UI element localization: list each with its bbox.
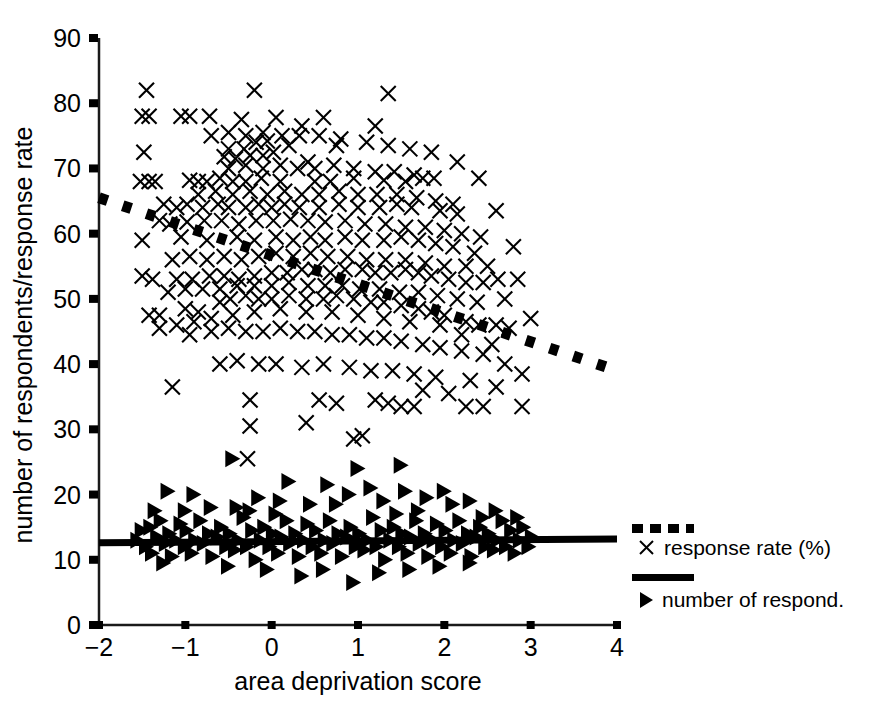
data-point-triangle xyxy=(154,512,169,529)
data-point-triangle xyxy=(292,548,307,565)
data-point-x xyxy=(325,327,340,342)
data-point-x xyxy=(376,311,391,326)
data-point-triangle xyxy=(323,512,338,529)
data-point-x xyxy=(454,226,469,241)
y-tick-label: 40 xyxy=(53,350,81,378)
data-point-x xyxy=(326,158,341,173)
data-point-x xyxy=(221,161,236,176)
data-point-x xyxy=(437,259,452,274)
data-point-x xyxy=(418,256,433,271)
data-point-x xyxy=(318,278,333,293)
data-point-x xyxy=(415,337,430,352)
x-tick-label: 2 xyxy=(437,633,451,661)
data-point-x xyxy=(142,109,157,124)
data-point-x xyxy=(292,200,307,215)
x-tick-mark xyxy=(527,621,535,629)
data-point-x xyxy=(303,229,318,244)
data-point-x xyxy=(363,295,378,310)
data-point-x xyxy=(338,213,353,228)
data-point-x xyxy=(212,282,227,297)
data-point-x xyxy=(152,321,167,336)
data-point-triangle xyxy=(363,480,378,497)
data-point-x xyxy=(234,112,249,127)
y-tick-label: 30 xyxy=(53,415,81,443)
data-point-x xyxy=(256,161,271,176)
data-point-x xyxy=(363,363,378,378)
data-point-triangle xyxy=(251,489,266,506)
data-point-x xyxy=(489,317,504,332)
data-point-x xyxy=(299,304,314,319)
data-point-x xyxy=(139,83,154,98)
data-point-x xyxy=(497,357,512,372)
data-point-triangle xyxy=(342,486,357,503)
data-point-triangle xyxy=(452,512,467,529)
y-tick-mark xyxy=(89,34,98,42)
data-point-x xyxy=(359,135,374,150)
y-tick-label: 90 xyxy=(53,24,81,52)
data-point-x xyxy=(476,399,491,414)
data-point-triangle xyxy=(161,483,176,500)
data-point-x xyxy=(290,324,305,339)
data-point-x xyxy=(221,125,236,140)
data-point-x xyxy=(145,272,160,287)
data-point-triangle xyxy=(320,476,335,493)
data-point-x xyxy=(325,304,340,319)
data-point-x xyxy=(264,265,279,280)
y-tick-mark xyxy=(89,99,98,107)
data-point-x xyxy=(316,357,331,372)
data-point-x xyxy=(346,291,361,306)
data-point-x xyxy=(407,399,422,414)
data-point-x xyxy=(376,233,391,248)
data-point-x xyxy=(450,291,465,306)
data-point-x xyxy=(368,164,383,179)
data-point-x xyxy=(369,187,384,202)
data-point-x xyxy=(136,145,151,160)
data-point-triangle xyxy=(366,509,381,526)
data-point-x xyxy=(387,164,402,179)
data-point-x xyxy=(156,197,171,212)
x-tick-mark xyxy=(268,621,276,629)
y-tick-label: 70 xyxy=(53,154,81,182)
data-point-x xyxy=(273,301,288,316)
data-point-x xyxy=(268,229,283,244)
y-tick-label: 80 xyxy=(53,89,81,117)
x-tick-label: −1 xyxy=(171,633,200,661)
data-point-triangle xyxy=(260,561,275,578)
series-response-rate xyxy=(133,83,538,467)
data-point-x xyxy=(398,252,413,267)
data-point-x xyxy=(312,200,327,215)
data-point-x xyxy=(332,197,347,212)
data-point-x xyxy=(225,174,240,189)
data-point-x xyxy=(424,145,439,160)
data-point-x xyxy=(281,288,296,303)
data-point-x xyxy=(178,282,193,297)
data-point-x xyxy=(169,317,184,332)
x-tick-mark xyxy=(95,621,103,629)
legend-item-trend-solid xyxy=(632,574,694,581)
data-point-x xyxy=(225,187,240,202)
data-point-x xyxy=(212,357,227,372)
data-point-x xyxy=(351,308,366,323)
data-point-x xyxy=(225,308,240,323)
data-point-triangle xyxy=(398,483,413,500)
trendline-dotted xyxy=(99,198,617,371)
y-tick-mark xyxy=(89,491,98,499)
data-point-triangle xyxy=(402,561,417,578)
data-point-x xyxy=(329,396,344,411)
data-point-x xyxy=(515,399,530,414)
scatter-plot-svg: 0102030405060708090 −2−101234 area depri… xyxy=(0,0,872,712)
data-point-x xyxy=(318,214,333,229)
data-point-x xyxy=(510,272,525,287)
data-point-x xyxy=(381,138,396,153)
y-tick-label: 20 xyxy=(53,481,81,509)
data-point-x xyxy=(294,360,309,375)
x-tick-label: 0 xyxy=(265,633,279,661)
data-point-triangle xyxy=(476,509,491,526)
data-point-x xyxy=(351,187,366,202)
data-point-x xyxy=(273,321,288,336)
data-point-x xyxy=(217,249,232,264)
data-point-x xyxy=(221,321,236,336)
data-point-x xyxy=(458,275,473,290)
data-point-triangle xyxy=(329,496,344,513)
data-point-x xyxy=(473,229,488,244)
